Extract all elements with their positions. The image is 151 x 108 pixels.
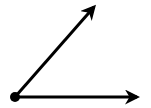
angle-diagram <box>0 0 151 108</box>
vertex-point <box>10 92 20 102</box>
upper-ray <box>15 7 94 97</box>
